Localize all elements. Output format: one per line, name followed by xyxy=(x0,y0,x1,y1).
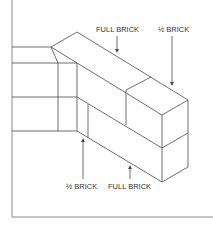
label-top-half-brick: ½ BRICK xyxy=(158,25,189,34)
top-face xyxy=(51,32,188,115)
front-face xyxy=(77,63,162,182)
label-top-full-brick: FULL BRICK xyxy=(96,25,139,34)
arrow-down-icon xyxy=(115,49,119,53)
arrow-up-icon xyxy=(128,165,132,169)
label-bottom-half-brick: ½ BRICK xyxy=(66,182,97,191)
arrow-down-icon xyxy=(170,82,174,86)
arrow-up-icon xyxy=(81,138,85,142)
brick-diagram: FULL BRICK ½ BRICK ½ BRICK FULL BRICK xyxy=(0,0,213,227)
label-bottom-full-brick: FULL BRICK xyxy=(108,182,151,191)
left-wall xyxy=(12,47,77,131)
